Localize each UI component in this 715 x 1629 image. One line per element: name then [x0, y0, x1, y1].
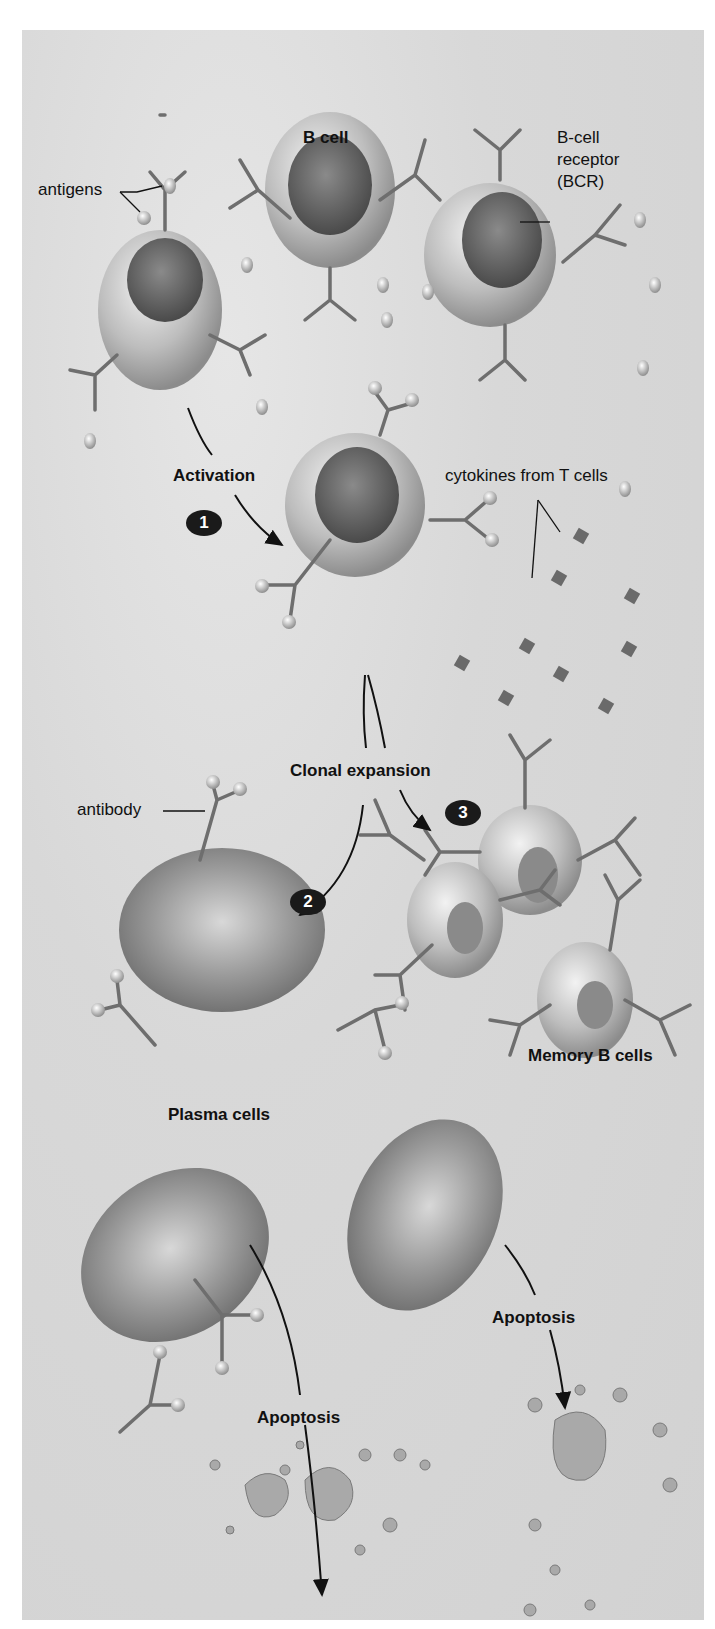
step-badge-1: 1	[186, 510, 222, 536]
apoptotic-debris-right	[524, 1385, 677, 1616]
memory-b-cells	[407, 805, 633, 1058]
label-bcr-line2: receptor	[557, 150, 619, 169]
step-badge-3: 3	[445, 800, 481, 826]
b-cell-left	[98, 230, 222, 390]
label-b-cell: B cell	[303, 128, 348, 147]
label-cytokines: cytokines from T cells	[445, 466, 608, 485]
b-cell-right	[424, 183, 556, 327]
label-activation: Activation	[173, 466, 255, 485]
step-badge-2: 2	[290, 889, 326, 915]
apoptotic-debris-left	[210, 1441, 430, 1555]
cytokines	[454, 528, 640, 714]
label-antigens: antigens	[38, 180, 102, 199]
label-bcr-line1: B-cell	[557, 128, 600, 147]
activated-b-cell	[285, 433, 425, 577]
label-apoptosis-right: Apoptosis	[492, 1308, 575, 1327]
label-antibody: antibody	[77, 800, 141, 819]
label-plasma-cells: Plasma cells	[168, 1105, 270, 1124]
label-apoptosis-left: Apoptosis	[257, 1408, 340, 1427]
label-memory-b-cells: Memory B cells	[528, 1046, 653, 1065]
cytokine-pointer-lines	[532, 500, 560, 578]
label-bcr-line3: (BCR)	[557, 172, 604, 191]
label-clonal-expansion: Clonal expansion	[290, 761, 431, 780]
